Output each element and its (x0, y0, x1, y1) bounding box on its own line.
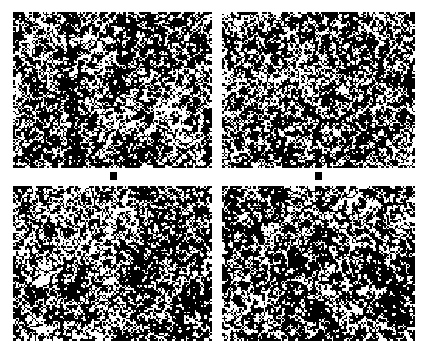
left-gap-marker (110, 172, 117, 180)
top-right-texture-canvas (222, 12, 415, 168)
bottom-left-texture-canvas (13, 186, 212, 341)
panel-top-right (222, 12, 415, 168)
panel-bottom-right (222, 186, 415, 341)
figure-root (0, 0, 429, 353)
panel-bottom-left (13, 186, 212, 341)
panel-top-left (13, 12, 212, 168)
top-left-texture-canvas (13, 12, 212, 168)
bottom-right-texture-canvas (222, 186, 415, 341)
right-gap-marker (315, 172, 322, 180)
